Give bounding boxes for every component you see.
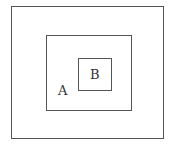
label-a: A bbox=[58, 84, 67, 97]
label-b: B bbox=[90, 68, 100, 81]
